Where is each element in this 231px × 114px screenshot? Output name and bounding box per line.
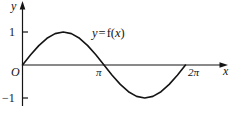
origin-label: O: [11, 66, 20, 78]
plot-canvas: [0, 0, 231, 114]
y-axis-arrowhead-icon: [20, 1, 26, 10]
sine-curve-figure: y x O 1 −1 π 2π y=f(x): [0, 0, 231, 114]
curve-equation-y: y: [92, 26, 98, 40]
y-axis-label: y: [11, 0, 16, 12]
x-tick-label-pi: π: [96, 67, 102, 78]
y-tick-label-1: 1: [9, 26, 15, 38]
y-tick-label-neg1: −1: [2, 92, 15, 104]
x-axis-label: x: [223, 65, 228, 77]
curve-equation-label: y=f(x): [92, 27, 125, 40]
curve-equation-equals: =: [98, 26, 107, 40]
curve-equation-close-paren: ): [121, 26, 125, 40]
x-tick-label-2pi: 2π: [188, 67, 199, 78]
